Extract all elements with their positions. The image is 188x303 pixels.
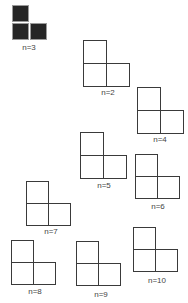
- square-cell: [80, 132, 104, 156]
- square-cell: [11, 240, 34, 263]
- square-cell: [137, 110, 161, 134]
- shape-label: n=10: [148, 277, 166, 285]
- square-cell: [135, 154, 158, 177]
- square-cell: [33, 262, 56, 285]
- shape-label: n=3: [22, 44, 36, 52]
- shape-label: n=5: [97, 182, 111, 190]
- square-cell: [103, 155, 127, 179]
- square-cell: [76, 241, 99, 264]
- shape-label: n=2: [101, 89, 115, 97]
- square-cell: [137, 87, 161, 111]
- square-cell: [160, 110, 184, 134]
- square-cell: [12, 23, 29, 40]
- square-cell: [11, 262, 34, 285]
- shape-label: n=7: [44, 228, 58, 236]
- square-cell: [157, 176, 180, 199]
- square-cell: [155, 249, 178, 272]
- shape-label: n=9: [94, 291, 108, 299]
- square-cell: [80, 155, 104, 179]
- square-cell: [83, 63, 107, 87]
- shape-label: n=6: [151, 203, 165, 211]
- square-cell: [133, 249, 156, 272]
- square-cell: [76, 263, 99, 286]
- shape-label: n=8: [28, 288, 42, 296]
- square-cell: [30, 23, 47, 40]
- square-cell: [12, 5, 29, 22]
- square-cell: [133, 227, 156, 250]
- square-cell: [26, 181, 49, 204]
- square-cell: [48, 203, 71, 226]
- shape-label: n=4: [153, 136, 167, 144]
- square-cell: [98, 263, 121, 286]
- square-cell: [106, 63, 130, 87]
- square-cell: [135, 176, 158, 199]
- square-cell: [83, 40, 107, 64]
- square-cell: [26, 203, 49, 226]
